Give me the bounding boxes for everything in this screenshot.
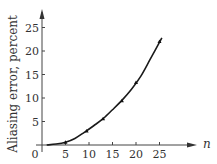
y-tick-label: 10 bbox=[25, 92, 39, 105]
x-tick-label: 5 bbox=[62, 148, 69, 161]
y-axis-arrow-icon bbox=[40, 9, 45, 19]
y-tick-label: 15 bbox=[25, 69, 39, 82]
curve bbox=[47, 38, 162, 145]
axes bbox=[36, 9, 197, 152]
x-tick-label: 25 bbox=[153, 148, 167, 161]
y-axis-label: Aliasing error, percent bbox=[6, 15, 20, 154]
y-tick-label: 5 bbox=[32, 116, 39, 129]
y-tick-label: 20 bbox=[25, 45, 39, 58]
error-curve bbox=[47, 38, 162, 145]
y-tick-label: 25 bbox=[25, 22, 39, 35]
x-tick-label: 20 bbox=[129, 148, 143, 161]
labels: 5101520255101520250nAliasing error, perc… bbox=[6, 15, 211, 161]
x-axis-label: n bbox=[203, 137, 211, 151]
x-axis-arrow-icon bbox=[187, 143, 197, 148]
x-tick-label: 10 bbox=[82, 148, 96, 161]
data-markers bbox=[64, 40, 162, 144]
origin-label: 0 bbox=[32, 148, 39, 161]
x-tick-label: 15 bbox=[106, 148, 120, 161]
aliasing-error-chart: 5101520255101520250nAliasing error, perc… bbox=[0, 0, 217, 164]
